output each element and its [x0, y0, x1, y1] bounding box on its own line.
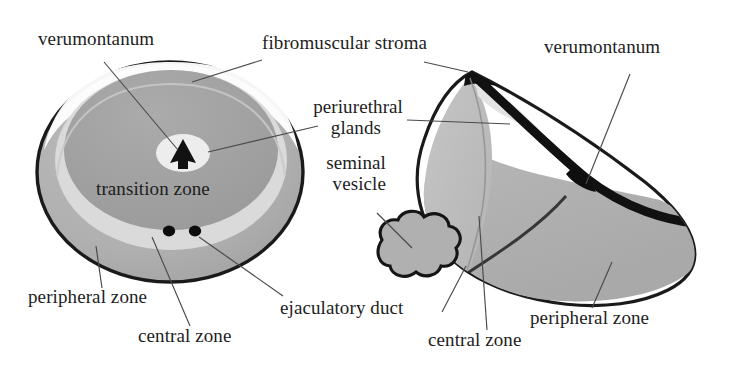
- label-transition-zone: transition zone: [96, 178, 210, 199]
- label-ejaculatory-duct: ejaculatory duct: [280, 297, 403, 318]
- label-periurethral-glands-line1: periurethral: [218, 96, 403, 117]
- axial-ejaculatory-duct-left: [163, 226, 175, 237]
- label-peripheral-zone-right: peripheral zone: [530, 307, 649, 328]
- label-verumontanum-left: verumontanum: [38, 28, 154, 49]
- sagittal-seminal-vesicle: [378, 211, 460, 276]
- label-seminal-vesicle-line1: seminal: [218, 152, 386, 173]
- axial-ejaculatory-duct-right: [189, 226, 201, 237]
- prostate-anatomy-figure: verumontanum fibromuscular stroma verumo…: [0, 0, 731, 375]
- label-seminal-vesicle-line2: vesicle: [218, 173, 386, 194]
- label-central-zone-right: central zone: [428, 329, 522, 350]
- sagittal-view-group: [377, 62, 706, 330]
- label-verumontanum-right: verumontanum: [544, 36, 660, 57]
- label-central-zone-left: central zone: [138, 325, 232, 346]
- label-periurethral-glands-line2: glands: [218, 117, 381, 138]
- label-peripheral-zone-left: peripheral zone: [28, 286, 147, 307]
- label-fibromuscular-stroma: fibromuscular stroma: [262, 32, 427, 53]
